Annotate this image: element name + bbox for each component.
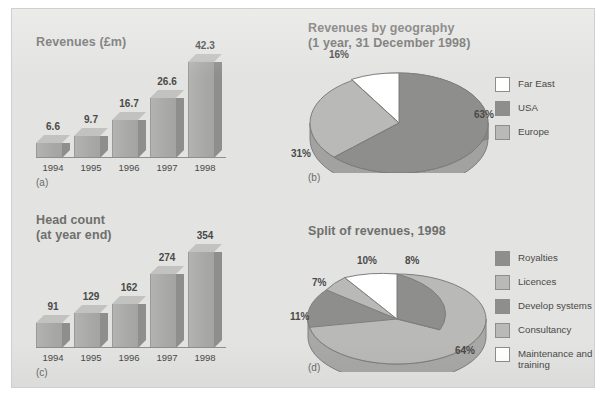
legend-swatch [495, 275, 510, 290]
legend-swatch [495, 125, 510, 140]
bar-column [188, 54, 222, 158]
bar-front-face [74, 313, 101, 348]
chart-d-pct-develop-systems: 11% [290, 311, 309, 322]
bar-value-label: 6.6 [32, 121, 74, 132]
chart-a-caption: (a) [36, 177, 48, 188]
chart-c-axis [36, 347, 226, 348]
bar-front-face [36, 143, 63, 158]
bar-value-label: 42.3 [184, 40, 226, 51]
bar-top-face [36, 315, 70, 323]
bar-value-label: 16.7 [108, 98, 150, 109]
bar-front-face [150, 274, 177, 348]
chart-b-revenues-by-geography: Revenues by geography (1 year, 31 Decemb… [290, 9, 596, 199]
legend-label: Develop systems [518, 299, 592, 311]
chart-d-title: Split of revenues, 1998 [308, 224, 446, 239]
bar-column [36, 315, 70, 348]
bar-column [36, 135, 70, 158]
chart-a-title: Revenues (£m) [36, 35, 126, 50]
chart-c-title: Head count (at year end) [36, 213, 112, 243]
legend-label: Europe [518, 125, 549, 137]
chart-b-caption: (b) [308, 172, 320, 183]
bar-side-face [176, 98, 184, 158]
legend-item[interactable]: Develop systems [495, 299, 600, 314]
bar-top-face [188, 244, 222, 252]
bar-value-label: 354 [184, 230, 226, 241]
bar-side-face [100, 313, 108, 348]
chart-d-pie-svg [300, 267, 495, 372]
legend-swatch [495, 323, 510, 338]
legend-item[interactable]: Far East [495, 77, 595, 92]
chart-d-pct-royalties: 8% [405, 255, 419, 266]
chart-c-caption: (c) [36, 367, 48, 378]
bar-value-label: 91 [32, 301, 74, 312]
bar-side-face [138, 120, 146, 158]
chart-a-plot [36, 53, 266, 158]
bar-column [150, 90, 184, 158]
bar-side-face [62, 323, 70, 348]
chart-d-split-of-revenues: Split of revenues, 1998 8% 64% 11% [290, 199, 596, 389]
bar-top-face [150, 90, 184, 98]
legend-swatch [495, 101, 510, 116]
legend-label: Far East [518, 77, 555, 89]
chart-b-title: Revenues by geography (1 year, 31 Decemb… [308, 21, 470, 51]
legend-swatch [495, 299, 510, 314]
chart-b-pie-svg [304, 61, 494, 173]
chart-b-pct-europe: 31% [291, 148, 311, 159]
bar-column [112, 296, 146, 348]
legend-label: Consultancy [518, 323, 571, 335]
bar-top-face [150, 266, 184, 274]
legend-item[interactable]: Licences [495, 275, 600, 290]
legend-item[interactable]: Maintenance and training [495, 347, 600, 370]
bar-front-face [36, 323, 63, 348]
x-axis-tick-label: 1998 [183, 352, 227, 363]
bar-front-face [112, 304, 139, 348]
chart-d-legend: RoyaltiesLicencesDevelop systemsConsulta… [495, 251, 600, 379]
x-axis-tick-label: 1998 [183, 162, 227, 173]
bar-top-face [36, 135, 70, 143]
bar-side-face [176, 274, 184, 348]
bar-front-face [150, 98, 177, 158]
chart-a-revenues: Revenues (£m) 19941995199619971998 (a) 6… [12, 9, 290, 199]
chart-b-pct-far-east: 16% [329, 49, 349, 60]
chart-b-legend: Far EastUSAEurope [495, 77, 595, 149]
legend-item[interactable]: Consultancy [495, 323, 600, 338]
bar-top-face [188, 54, 222, 62]
bar-top-face [112, 296, 146, 304]
chart-d-caption: (d) [308, 362, 320, 373]
bar-column [74, 128, 108, 158]
bar-top-face [74, 128, 108, 136]
chart-b-pie: 16% 63% 31% [304, 61, 494, 173]
chart-d-pct-consultancy: 7% [312, 277, 326, 288]
chart-c-head-count: Head count (at year end) 199419951996199… [12, 199, 290, 389]
bar-value-label: 9.7 [70, 114, 112, 125]
charts-panel: Revenues (£m) 19941995199619971998 (a) 6… [11, 8, 595, 388]
legend-item[interactable]: Europe [495, 125, 595, 140]
bar-column [150, 266, 184, 348]
legend-item[interactable]: USA [495, 101, 595, 116]
legend-label: Licences [518, 275, 556, 287]
bar-value-label: 26.6 [146, 76, 188, 87]
legend-swatch [495, 347, 510, 362]
bar-column [74, 305, 108, 348]
chart-a-axis [36, 157, 226, 158]
bar-value-label: 274 [146, 252, 188, 263]
bar-front-face [188, 252, 215, 348]
bar-front-face [74, 136, 101, 158]
legend-swatch [495, 251, 510, 266]
legend-label: Maintenance and training [518, 347, 592, 370]
legend-label: USA [518, 101, 538, 113]
chart-b-pct-usa: 63% [474, 109, 494, 120]
bar-column [188, 244, 222, 348]
bar-side-face [62, 143, 70, 158]
bar-value-label: 129 [70, 291, 112, 302]
bar-side-face [214, 62, 222, 158]
bar-front-face [112, 120, 139, 158]
bar-side-face [100, 136, 108, 158]
bar-front-face [188, 62, 215, 158]
legend-label: Royalties [518, 251, 558, 263]
bar-top-face [74, 305, 108, 313]
legend-item[interactable]: Royalties [495, 251, 600, 266]
bar-column [112, 112, 146, 158]
legend-swatch [495, 77, 510, 92]
chart-d-pie: 8% 64% 11% 7% 10% [300, 267, 495, 372]
